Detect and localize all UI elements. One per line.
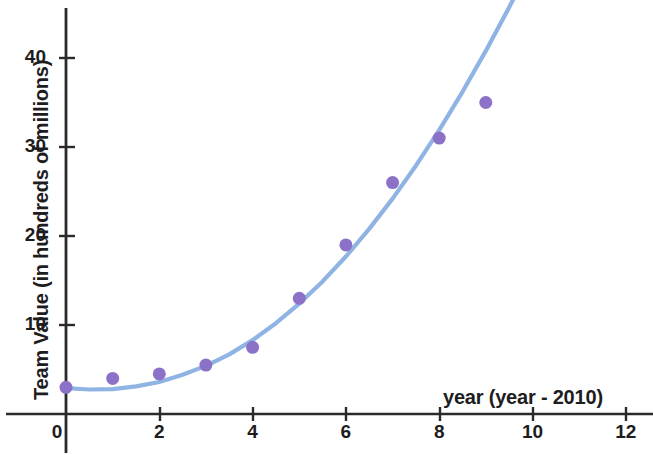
data-point — [199, 359, 212, 372]
data-point — [479, 96, 492, 109]
x-tick-label: 10 — [517, 421, 549, 443]
scatter-plot-figure: Team Value (in hundreds of millions) yea… — [0, 0, 653, 455]
scatter-point-group — [60, 96, 493, 394]
y-tick-label: 40 — [4, 46, 46, 68]
y-tick-label: 30 — [4, 135, 46, 157]
y-tick-label: 20 — [4, 224, 46, 246]
data-point — [293, 292, 306, 305]
y-tick-label: 10 — [4, 313, 46, 335]
x-tick-label: 6 — [330, 421, 362, 443]
data-point — [106, 372, 119, 385]
x-tick-label: 4 — [237, 421, 269, 443]
data-point — [246, 341, 259, 354]
data-point — [386, 176, 399, 189]
data-point — [153, 367, 166, 380]
x-tick-label: 12 — [610, 421, 642, 443]
x-tick-label: 2 — [143, 421, 175, 443]
x-tick-label: 8 — [423, 421, 455, 443]
data-point — [433, 132, 446, 145]
data-point — [339, 238, 352, 251]
x-axis-title: year (year - 2010) — [443, 386, 603, 409]
data-point — [60, 381, 73, 394]
fitted-trend-curve — [66, 0, 537, 389]
x-tick-label: 0 — [41, 421, 73, 443]
